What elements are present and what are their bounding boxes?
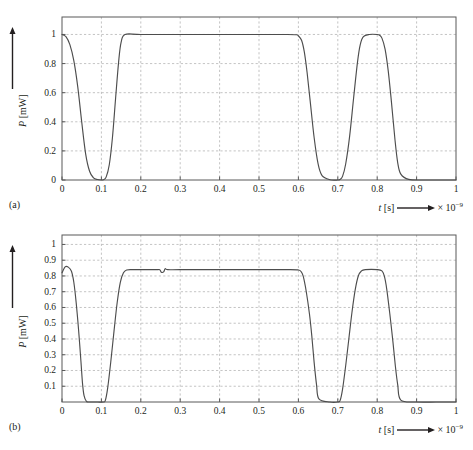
- x-tick-label: 0.8: [371, 406, 383, 416]
- panel-tag-b: (b): [9, 421, 21, 432]
- y-tick-label: 0.2: [28, 146, 56, 156]
- x-tick-label: 1: [454, 406, 459, 416]
- y-tick-label: 0.5: [28, 318, 56, 328]
- y-tick-label: 0.1: [28, 381, 56, 391]
- x-tick-label: 0.8: [371, 184, 383, 194]
- plot-area-a: [0, 0, 473, 225]
- y-tick-label: 1: [28, 29, 56, 39]
- x-tick-label: 0.1: [95, 184, 107, 194]
- y-tick-label: 0.9: [28, 255, 56, 265]
- x-axis-arrow-b: [397, 426, 435, 434]
- x-axis-scale-exponent-a: −9: [456, 201, 463, 209]
- x-tick-label: 0.5: [253, 406, 265, 416]
- y-tick-label: 0.8: [28, 59, 56, 69]
- x-tick-label: 0.6: [292, 184, 304, 194]
- y-axis-arrow: [8, 245, 17, 308]
- y-tick-label: 0.4: [28, 117, 56, 127]
- y-tick-label: 0.6: [28, 88, 56, 98]
- y-tick-label: 1: [28, 239, 56, 249]
- x-axis-arrow-a: [397, 204, 435, 212]
- x-tick-label: 1: [454, 184, 459, 194]
- x-tick-label: 0.9: [411, 406, 423, 416]
- x-tick-label: 0.7: [332, 406, 344, 416]
- x-axis-label-b: t [s] × 10−9: [379, 423, 463, 435]
- y-tick-label: 0.6: [28, 302, 56, 312]
- y-tick-label: 0: [28, 175, 56, 185]
- x-axis-scale-prefix-a: × 10: [437, 202, 455, 213]
- x-tick-label: 0.5: [253, 184, 265, 194]
- y-tick-label: 0.7: [28, 287, 56, 297]
- chart-panel-a: P [mW] (a) t [s] × 10−9 00.10.20.30.40.5…: [0, 0, 473, 225]
- x-axis-scale-prefix-b: × 10: [437, 424, 455, 435]
- x-axis-label-unit-b: [s]: [384, 424, 395, 435]
- x-axis-label-unit-a: [s]: [384, 202, 395, 213]
- panel-tag-a: (a): [9, 199, 20, 210]
- y-tick-label: 0.4: [28, 334, 56, 344]
- x-axis-label-variable-a: t: [379, 202, 382, 213]
- x-tick-label: 0.9: [411, 184, 423, 194]
- x-tick-label: 0.2: [135, 406, 147, 416]
- x-tick-label: 0.4: [214, 184, 226, 194]
- x-tick-label: 0: [60, 184, 65, 194]
- chart-panel-b: P [mW] (b) t [s] × 10−9 00.10.20.30.40.5…: [0, 225, 473, 450]
- x-tick-label: 0.6: [292, 406, 304, 416]
- x-tick-label: 0.4: [214, 406, 226, 416]
- x-tick-label: 0.3: [174, 184, 186, 194]
- figure-container: P [mW] (a) t [s] × 10−9 00.10.20.30.40.5…: [0, 0, 473, 450]
- x-tick-label: 0.2: [135, 184, 147, 194]
- x-tick-label: 0: [60, 406, 65, 416]
- plot-area-b: [0, 225, 473, 450]
- y-tick-label: 0.2: [28, 365, 56, 375]
- x-axis-scale-exponent-b: −9: [456, 423, 463, 431]
- x-axis-label-a: t [s] × 10−9: [379, 201, 463, 213]
- x-tick-label: 0.7: [332, 184, 344, 194]
- y-axis-arrow: [8, 27, 17, 89]
- y-tick-label: 0.3: [28, 350, 56, 360]
- x-tick-label: 0.3: [174, 406, 186, 416]
- y-tick-label: 0.8: [28, 271, 56, 281]
- x-axis-label-variable-b: t: [379, 424, 382, 435]
- x-tick-label: 0.1: [95, 406, 107, 416]
